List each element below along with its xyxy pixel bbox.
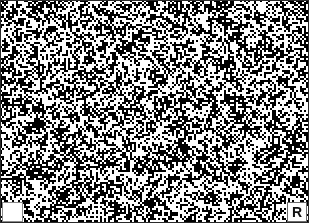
noise-texture-image [0, 0, 309, 223]
orientation-marker-letter: R [292, 205, 302, 219]
orientation-marker-box: R [287, 202, 307, 222]
micrograph-figure: R [0, 0, 309, 223]
scalebar-box [2, 202, 23, 222]
